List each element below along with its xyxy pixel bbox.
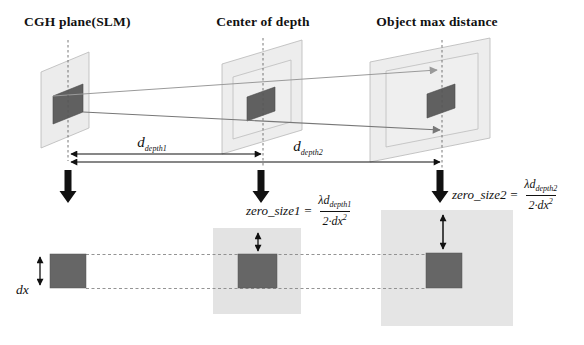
formula2-num-base: λd: [524, 177, 535, 191]
formula1-equals: =: [302, 204, 313, 217]
formula1-den-base: 2·dx: [323, 214, 343, 228]
d-depth1-sub: depth1: [145, 144, 167, 153]
pixel-square-max: [426, 253, 462, 288]
formula1-fraction: λddepth1 2·dx2: [315, 194, 354, 227]
formula2-fraction: λddepth2 2·dx2: [521, 178, 560, 211]
figure-canvas: CGH plane(SLM) Center of depth Object ma…: [0, 0, 584, 345]
max-distance-plane-graphic: [370, 38, 490, 162]
formula2-num-sub: depth2: [535, 184, 557, 193]
formula1-denominator: 2·dx2: [320, 211, 350, 227]
formula1-num-base: λd: [318, 193, 329, 207]
formula1-lhs: zero_size1: [246, 204, 300, 217]
d-depth2-sub: depth2: [301, 148, 323, 157]
label-cgh-plane: CGH plane(SLM): [24, 14, 131, 30]
down-arrow-max: [432, 170, 449, 203]
formula-zero-size2: zero_size2 = λddepth2 2·dx2: [452, 178, 560, 211]
center-of-depth-plane-graphic: [222, 40, 302, 154]
pixel-square-cgh: [50, 254, 86, 288]
formula1-den-exp: 2: [343, 213, 347, 222]
down-arrow-cgh: [60, 170, 77, 203]
label-object-max-distance: Object max distance: [376, 14, 498, 30]
label-dx: dx: [16, 283, 29, 297]
cgh-plane-graphic: [41, 52, 89, 148]
formula1-num-sub: depth1: [329, 200, 351, 209]
formula2-den-exp: 2: [549, 197, 553, 206]
formula1-numerator: λddepth1: [315, 194, 354, 211]
label-d-depth2: ddepth2: [293, 139, 322, 157]
formula-zero-size1: zero_size1 = λddepth1 2·dx2: [246, 194, 354, 227]
diagram-graphics: [0, 0, 584, 345]
formula2-denominator: 2·dx2: [526, 195, 556, 211]
d-depth2-base: d: [293, 138, 301, 154]
label-d-depth1: ddepth1: [137, 135, 166, 153]
formula2-lhs: zero_size2: [452, 188, 506, 201]
formula2-equals: =: [508, 188, 519, 201]
d-depth1-base: d: [137, 134, 145, 150]
label-center-of-depth: Center of depth: [216, 14, 310, 30]
formula2-den-base: 2·dx: [529, 198, 549, 212]
pixel-square-center: [238, 254, 277, 288]
formula2-numerator: λddepth2: [521, 178, 560, 195]
